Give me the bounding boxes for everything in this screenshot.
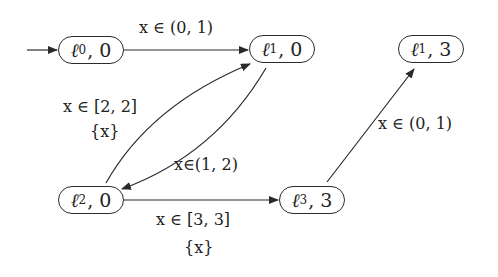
edge-label-l3-l1-3-guard: x ∈ (0, 1) — [378, 114, 452, 133]
node-subscript: 0 — [79, 43, 87, 57]
node-subscript: 1 — [419, 42, 427, 56]
edge-label-l2-l3-guard: x ∈ [3, 3] — [156, 210, 230, 229]
node-value: , 3 — [308, 189, 332, 211]
node-subscript: 3 — [300, 193, 308, 207]
node-symbol: ℓ — [71, 39, 79, 62]
node-l2-0: ℓ2, 0 — [58, 186, 124, 214]
node-subscript: 1 — [270, 42, 278, 56]
node-symbol: ℓ — [262, 38, 270, 61]
edge-label-l0-l1-guard: x ∈ (0, 1) — [139, 18, 213, 37]
node-value: , 0 — [87, 39, 111, 61]
node-symbol: ℓ — [292, 189, 300, 212]
edge-label-l1-l2-guard: x∈(1, 2) — [174, 155, 238, 174]
edge-label-l2-l3-reset: {x} — [184, 238, 213, 257]
node-value: , 0 — [87, 189, 111, 211]
node-symbol: ℓ — [71, 189, 79, 212]
node-symbol: ℓ — [411, 38, 419, 61]
node-value: , 3 — [427, 38, 451, 60]
node-value: , 0 — [278, 38, 302, 60]
node-subscript: 2 — [79, 193, 87, 207]
edge-label-l2-l1-guard: x ∈ [2, 2] — [63, 97, 137, 116]
node-l1-0: ℓ1, 0 — [249, 35, 315, 63]
automaton-diagram: ℓ0, 0 ℓ1, 0 ℓ1, 3 ℓ2, 0 ℓ3, 3 x ∈ (0, 1)… — [0, 0, 498, 277]
edge-label-l2-l1-reset: {x} — [90, 122, 119, 141]
node-l1-3: ℓ1, 3 — [398, 35, 464, 63]
node-l3-3: ℓ3, 3 — [279, 186, 345, 214]
node-l0-0: ℓ0, 0 — [58, 36, 124, 64]
